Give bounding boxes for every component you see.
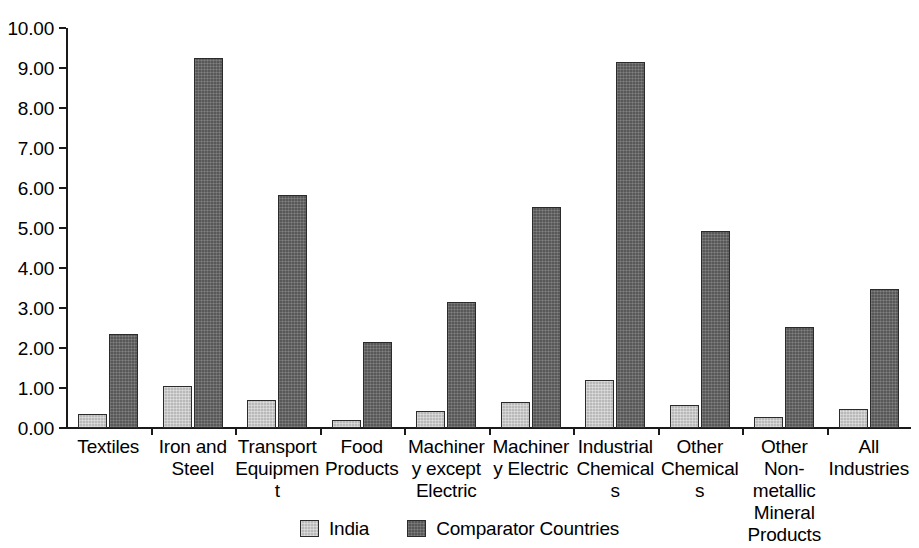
bar-india[interactable] xyxy=(247,400,276,428)
bar-comparator[interactable] xyxy=(785,327,814,428)
y-axis-tick-mark xyxy=(59,27,66,29)
y-axis-tick-label: 9.00 xyxy=(18,59,54,78)
bar-comparator[interactable] xyxy=(194,58,223,428)
legend-swatch-india xyxy=(300,520,319,537)
legend-swatch-comparator xyxy=(407,520,426,537)
chart-legend: IndiaComparator Countries xyxy=(0,519,919,538)
x-axis-tick-mark xyxy=(151,428,153,435)
y-axis-tick-mark xyxy=(59,67,66,69)
x-axis-category-label: Other Chemicals xyxy=(658,436,743,502)
x-axis-tick-mark xyxy=(827,428,829,435)
bar-group xyxy=(66,28,151,428)
bar-comparator[interactable] xyxy=(532,207,561,428)
y-axis-tick-mark xyxy=(59,187,66,189)
bar-india[interactable] xyxy=(585,380,614,428)
y-axis-tick-mark xyxy=(59,227,66,229)
x-axis-tick-mark xyxy=(573,428,575,435)
bar-comparator[interactable] xyxy=(701,231,730,428)
bar-group xyxy=(658,28,743,428)
x-axis-category-label: Machinery except Electric xyxy=(404,436,489,502)
y-axis-tick-mark xyxy=(59,347,66,349)
bar-comparator[interactable] xyxy=(447,302,476,428)
x-axis-tick-mark xyxy=(235,428,237,435)
bar-comparator[interactable] xyxy=(109,334,138,428)
x-axis-tick-mark xyxy=(404,428,406,435)
y-axis-tick-label: 10.00 xyxy=(7,19,54,38)
legend-item[interactable]: Comparator Countries xyxy=(407,519,619,538)
x-axis-category-label: Machinery Electric xyxy=(489,436,574,480)
bar-india[interactable] xyxy=(839,409,868,428)
bar-india[interactable] xyxy=(754,417,783,428)
bar-group xyxy=(489,28,574,428)
y-axis-tick-label: 8.00 xyxy=(18,99,54,118)
bar-group xyxy=(742,28,827,428)
x-axis-category-label: Transport Equipment xyxy=(235,436,320,502)
x-axis-tick-mark xyxy=(742,428,744,435)
y-axis-tick-mark xyxy=(59,307,66,309)
y-axis-tick-mark xyxy=(59,147,66,149)
bar-comparator[interactable] xyxy=(278,195,307,428)
x-axis-category-label: Textiles xyxy=(66,436,151,458)
x-axis-category-label: All Industries xyxy=(827,436,912,480)
legend-item[interactable]: India xyxy=(300,519,369,538)
y-axis-tick-mark xyxy=(59,107,66,109)
bar-group xyxy=(827,28,912,428)
y-axis-tick-label: 7.00 xyxy=(18,139,54,158)
x-axis-category-label: Food Products xyxy=(320,436,405,480)
bar-india[interactable] xyxy=(670,405,699,428)
y-axis-tick-label: 0.00 xyxy=(18,419,54,438)
legend-label: India xyxy=(329,519,369,538)
x-axis-tick-mark xyxy=(658,428,660,435)
bar-comparator[interactable] xyxy=(616,62,645,428)
legend-label: Comparator Countries xyxy=(436,519,619,538)
y-axis-ticks: 10.009.008.007.006.005.004.003.002.001.0… xyxy=(0,0,66,548)
bar-group xyxy=(404,28,489,428)
y-axis-tick-label: 4.00 xyxy=(18,259,54,278)
x-axis-category-label: Iron and Steel xyxy=(151,436,236,480)
x-axis-category-label: Industrial Chemicals xyxy=(573,436,658,502)
bar-group xyxy=(573,28,658,428)
x-axis-tick-mark xyxy=(320,428,322,435)
x-axis-tick-mark xyxy=(489,428,491,435)
bar-group xyxy=(320,28,405,428)
bar-comparator[interactable] xyxy=(870,289,899,428)
y-axis-tick-mark xyxy=(59,387,66,389)
bar-india[interactable] xyxy=(501,402,530,428)
bar-group xyxy=(151,28,236,428)
bar-india[interactable] xyxy=(78,414,107,428)
y-axis-tick-label: 2.00 xyxy=(18,339,54,358)
bar-india[interactable] xyxy=(416,411,445,428)
y-axis-tick-label: 5.00 xyxy=(18,219,54,238)
plot-area xyxy=(66,28,911,428)
bar-india[interactable] xyxy=(163,386,192,428)
bar-group xyxy=(235,28,320,428)
chart-page: 10.009.008.007.006.005.004.003.002.001.0… xyxy=(0,0,919,548)
y-axis-tick-label: 1.00 xyxy=(18,379,54,398)
y-axis-tick-mark xyxy=(59,427,66,429)
y-axis-tick-label: 6.00 xyxy=(18,179,54,198)
y-axis-tick-mark xyxy=(59,267,66,269)
y-axis-tick-label: 3.00 xyxy=(18,299,54,318)
bar-india[interactable] xyxy=(332,420,361,428)
bar-comparator[interactable] xyxy=(363,342,392,428)
